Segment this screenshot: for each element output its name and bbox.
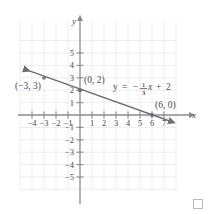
- y-tick-label: 3: [70, 73, 74, 83]
- x-tick-label: 2: [102, 118, 106, 128]
- point-label-6-0: (6, 0): [155, 100, 176, 111]
- point-label-neg3-3: (−3, 3): [15, 81, 41, 92]
- x-tick-label: −4: [27, 118, 37, 128]
- data-point: [42, 76, 46, 80]
- coordinate-plane: −4 −3 −2 −1 1 2 3 4 5 6 7 5 4 3 2 1 −1 −…: [0, 0, 208, 214]
- equation-minus: −: [133, 82, 138, 92]
- data-point: [150, 113, 154, 117]
- y-tick-label: −4: [65, 160, 75, 170]
- grid-lines: [20, 22, 176, 190]
- equation-label: y = − 1 3 x + 2: [113, 81, 171, 96]
- x-tick-label: 3: [114, 118, 118, 128]
- x-axis-label: x: [191, 110, 196, 120]
- equation-plus: +: [156, 82, 161, 92]
- x-tick-label: −2: [51, 118, 60, 128]
- x-tick-labels: −4 −3 −2 −1 1 2 3 4 5 6 7: [27, 118, 166, 128]
- y-tick-label: −1: [65, 122, 74, 132]
- x-tick-label: −3: [39, 118, 48, 128]
- point-label-0-2: (0, 2): [84, 75, 105, 86]
- y-tick-label: −2: [65, 135, 74, 145]
- y-tick-label: −5: [65, 172, 74, 182]
- equation-fraction-denominator: 3: [142, 89, 145, 96]
- x-tick-label: 5: [138, 118, 142, 128]
- equation-variable: x: [147, 82, 153, 92]
- equation-constant: 2: [166, 82, 171, 92]
- y-axis-label: y: [71, 16, 76, 26]
- x-tick-label: 6: [150, 118, 154, 128]
- equation-fraction-numerator: 1: [142, 81, 145, 88]
- data-point: [78, 88, 82, 92]
- graph-figure: −4 −3 −2 −1 1 2 3 4 5 6 7 5 4 3 2 1 −1 −…: [0, 0, 208, 214]
- y-tick-label: −3: [65, 147, 74, 157]
- resize-handle-icon[interactable]: [193, 199, 203, 209]
- x-tick-label: 4: [126, 118, 131, 128]
- equation-equals: =: [122, 82, 127, 92]
- x-tick-label: 1: [90, 118, 94, 128]
- y-tick-label: 5: [70, 48, 74, 58]
- equation-lhs: y: [113, 82, 118, 92]
- y-tick-label: 1: [70, 98, 74, 108]
